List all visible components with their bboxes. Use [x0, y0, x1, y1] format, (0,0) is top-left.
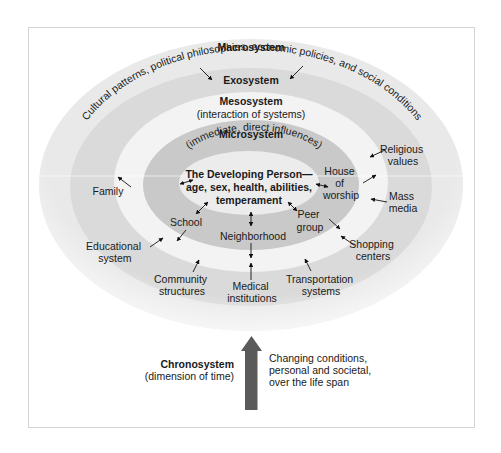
mesosystem-title: Mesosystem	[219, 95, 282, 107]
chronosystem-title: Chronosystem	[160, 358, 234, 370]
school-label: School	[170, 216, 202, 228]
exosystem-title: Exosystem	[223, 74, 278, 86]
chronosystem-description: Changing conditions, personal and societ…	[269, 352, 374, 388]
ecological-systems-diagram: Macrosystem Cultural patterns, political…	[0, 0, 501, 453]
community-structures-label: Community structures	[154, 273, 210, 297]
medical-institutions-label: Medical institutions	[227, 280, 277, 304]
mesosystem-description: (interaction of systems)	[197, 108, 306, 120]
family-label: Family	[93, 185, 125, 197]
chronosystem-subtitle: (dimension of time)	[145, 370, 234, 382]
developing-person-line3: temperament	[216, 194, 282, 206]
chrono-arrow-icon	[241, 336, 262, 410]
developing-person-line2: age, sex, health, abilities,	[186, 181, 312, 193]
peer-group-label: Peer group	[297, 208, 324, 233]
developing-person-line1: The Developing Person—	[185, 168, 313, 180]
neighborhood-label: Neighborhood	[220, 230, 286, 242]
shopping-centers-label: Shopping centers	[349, 238, 396, 262]
mass-media-label: Mass media	[389, 190, 418, 214]
